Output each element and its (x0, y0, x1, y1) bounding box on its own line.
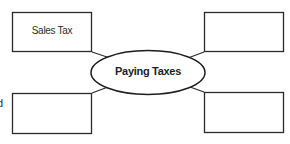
box-bottom-right (205, 93, 284, 133)
center-label: Paying Taxes (91, 65, 205, 77)
edge-text-fragment: d (0, 97, 3, 109)
box-bottom-left (13, 94, 92, 134)
box-top-right (205, 13, 284, 52)
connector-bottom-right (190, 87, 204, 92)
box-top-left-label: Sales Tax (12, 25, 92, 36)
